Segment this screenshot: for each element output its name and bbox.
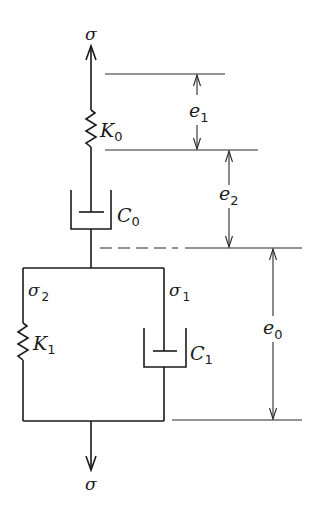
dashpot-c0-label: C0 xyxy=(117,204,140,229)
spring-k1-label: K1 xyxy=(32,332,55,357)
spring-k0-icon xyxy=(86,110,96,212)
bottom-stress-label: σ xyxy=(85,474,97,494)
reference-lines xyxy=(100,74,302,420)
bottom-stress-arrow xyxy=(86,421,96,470)
branch-stress-left-label: σ2 xyxy=(28,280,49,304)
spring-k1-icon xyxy=(18,323,28,360)
rheological-model-diagram: σ K0 C0 K1 C1 σ2 σ1 xyxy=(0,0,321,513)
strain-e0-label: e0 xyxy=(263,316,283,342)
spring-k0-label: K0 xyxy=(99,119,122,144)
branch-stress-right-label: σ1 xyxy=(169,280,190,304)
dashpot-c1-label: C1 xyxy=(190,342,213,367)
dashpot-c1-icon xyxy=(144,328,186,367)
strain-e1-label: e1 xyxy=(189,99,209,125)
top-stress-arrow xyxy=(86,46,96,110)
strain-e2-label: e2 xyxy=(219,182,239,208)
top-stress-label: σ xyxy=(85,24,97,44)
